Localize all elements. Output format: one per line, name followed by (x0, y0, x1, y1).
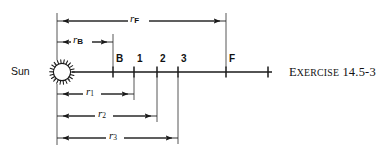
dimension-arrows (57, 13, 226, 145)
exercise-figure: Sun B 1 2 3 F rF rB r1 r2 r3 EXERCISE 14… (0, 0, 391, 155)
figure-caption: EXERCISE 14.5-3 (289, 65, 376, 80)
tick-label-3: 3 (181, 54, 187, 64)
dimension-subscript-r1: 1 (90, 89, 94, 98)
dimension-label-r2: r2 (98, 108, 106, 120)
dimension-subscript-r2: 2 (102, 111, 106, 120)
sun-label: Sun (11, 66, 30, 77)
dimension-label-rF: rF (130, 13, 139, 25)
caption-number: 14.5-3 (342, 65, 376, 79)
tick-label-B: B (116, 54, 123, 64)
dimension-subscript-rF: F (134, 16, 139, 25)
tick-label-F: F (229, 54, 235, 64)
dimension-subscript-rB: B (77, 37, 83, 46)
caption-word-rest: XERCISE (297, 67, 339, 78)
dimension-label-r3: r3 (109, 130, 117, 142)
tick-label-2: 2 (160, 54, 166, 64)
caption-first-letter: E (289, 65, 297, 79)
dimension-label-rB: rB (73, 34, 83, 46)
dimension-label-r1: r1 (86, 86, 94, 98)
sun-icon (50, 60, 75, 85)
extension-lines (57, 13, 226, 145)
tick-label-1: 1 (137, 54, 143, 64)
dimension-subscript-r3: 3 (113, 133, 117, 142)
